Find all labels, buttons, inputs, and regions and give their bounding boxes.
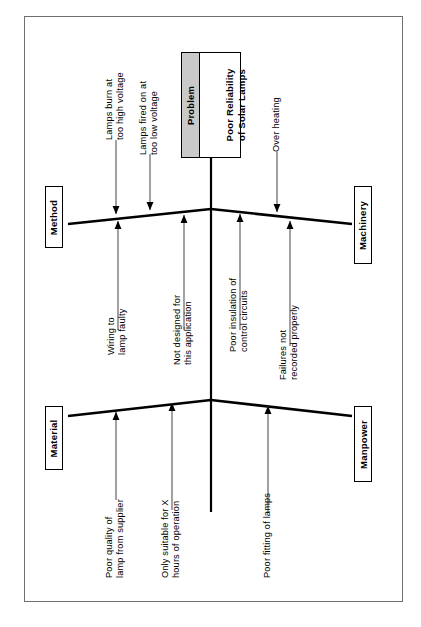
rib-method (68, 209, 211, 224)
category-label-manpower: Manpower (358, 420, 369, 469)
cause-line-1: Wiring to (106, 309, 117, 355)
rib-material (68, 400, 211, 416)
cause-label-manpower-cause-1: Poor insulation of control circuits (228, 278, 250, 352)
cause-label-material-cause-4: Only suitable for X hours of operation (160, 499, 182, 578)
category-label-machinery: Machinery (358, 200, 369, 249)
cause-line-1: Over heating (271, 97, 282, 152)
problem-effect: Poor Reliability of Solar Lamps (200, 53, 273, 157)
cause-label-material-cause-1: Wiring to lamp faulty (106, 309, 128, 355)
cause-line-1: Poor quality of (104, 499, 115, 578)
rib-manpower (211, 400, 352, 416)
cause-line-2: too high voltage (115, 72, 126, 140)
cause-line-1: Not designed for (172, 295, 183, 365)
category-label-method: Method (49, 199, 60, 234)
cause-line-1: Lamps burn at (104, 72, 115, 140)
fishbone-diagram: Problem Poor Reliability of Solar Lamps … (0, 0, 421, 627)
problem-box: Problem Poor Reliability of Solar Lamps (181, 52, 241, 158)
problem-effect-text: Poor Reliability of Solar Lamps (224, 69, 248, 142)
category-box-manpower: Manpower (354, 406, 372, 482)
problem-header-label: Problem (185, 86, 196, 125)
cause-label-material-cause-3: Poor quality of lamp from supplier (104, 499, 126, 578)
cause-label-manpower-cause-2: Failures not recorded properly (278, 305, 300, 380)
cause-label-method-cause-1: Lamps burn at too high voltage (104, 72, 126, 140)
problem-effect-line1: Poor Reliability (224, 69, 235, 142)
category-box-machinery: Machinery (354, 186, 372, 264)
problem-effect-line2: of Solar Lamps (236, 69, 247, 141)
cause-line-2: this application (183, 295, 194, 365)
cause-line-1: Lamps fired on at (138, 81, 149, 155)
cause-line-2: lamp faulty (117, 309, 128, 355)
cause-line-1: Poor fitting of lamps (262, 493, 273, 578)
cause-line-2: hours of operation (171, 499, 182, 578)
cause-label-material-cause-2: Not designed for this application (172, 295, 194, 365)
cause-line-1: Failures not (278, 305, 289, 380)
category-label-material: Material (49, 419, 60, 457)
problem-header: Problem (182, 53, 200, 157)
cause-label-method-cause-2: Lamps fired on at too low voltage (138, 81, 160, 155)
cause-line-1: Only suitable for X (160, 499, 171, 578)
cause-line-2: control circuits (239, 278, 250, 352)
cause-label-manpower-cause-3: Poor fitting of lamps (262, 493, 273, 578)
category-box-material: Material (45, 406, 63, 470)
cause-line-2: too low voltage (149, 81, 160, 155)
cause-label-machinery-cause-1: Over heating (271, 97, 282, 152)
cause-line-2: recorded properly (289, 305, 300, 380)
rib-machinery (211, 209, 352, 224)
cause-line-1: Poor insulation of (228, 278, 239, 352)
cause-line-2: lamp from supplier (115, 499, 126, 578)
category-box-method: Method (45, 186, 63, 248)
